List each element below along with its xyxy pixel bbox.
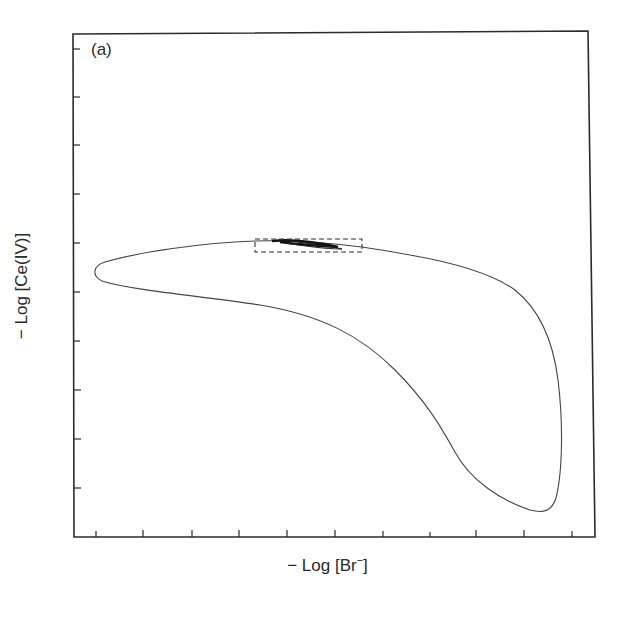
y-axis-label: − Log [Ce(IV)] bbox=[12, 233, 32, 339]
x-axis-label-main: − Log [Br bbox=[287, 556, 356, 575]
x-axis-label: − Log [Br−] bbox=[0, 556, 625, 576]
panel-label: (a) bbox=[91, 40, 112, 60]
x-axis-label-close: ] bbox=[363, 556, 368, 575]
plot-frame bbox=[73, 31, 595, 537]
phase-plot bbox=[0, 0, 625, 618]
x-axis-ticks bbox=[96, 530, 572, 537]
x-axis-label-superscript: − bbox=[357, 554, 363, 566]
limit-cycle-curve bbox=[95, 241, 562, 512]
